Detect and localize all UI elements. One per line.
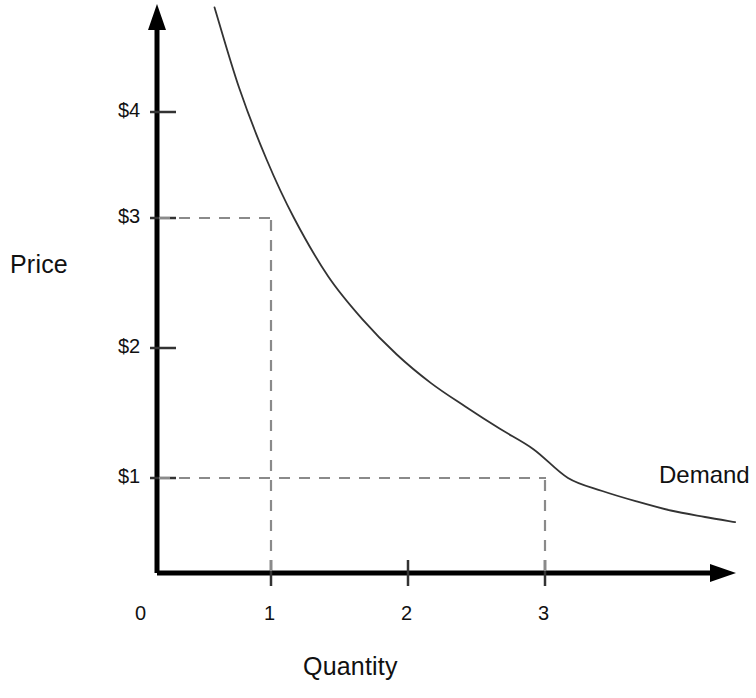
y-tick-label-3: $3 [118,205,140,228]
x-axis-arrowhead [710,564,736,582]
guide-lines-q1-p3 [159,218,272,572]
x-axis [157,564,736,582]
y-tick-label-2: $2 [118,335,140,358]
demand-curve [215,7,736,522]
y-axis-ticks [150,112,176,478]
x-tick-label-3: 3 [538,602,549,625]
x-tick-label-2: 2 [401,602,412,625]
chart-canvas: Price Quantity Demand $4 $3 $2 $1 0 1 2 … [0,0,756,698]
x-axis-title: Quantity [303,652,398,681]
y-axis [148,4,166,573]
demand-series-label: Demand [659,461,750,489]
y-tick-label-4: $4 [118,99,140,122]
guide-lines-q3-p1 [159,478,546,572]
x-tick-label-1: 1 [264,602,275,625]
x-tick-label-0: 0 [135,602,146,625]
y-tick-label-1: $1 [118,465,140,488]
y-axis-arrowhead [148,4,166,30]
y-axis-title: Price [10,250,68,279]
demand-curve-plot [0,0,756,698]
